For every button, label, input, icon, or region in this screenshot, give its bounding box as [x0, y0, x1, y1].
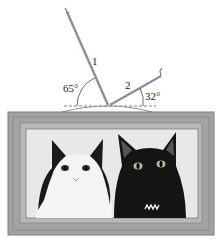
wire-2-hook-icon: [160, 68, 162, 76]
wire-2-label: 2: [125, 80, 131, 91]
angle-arc-32: [140, 88, 143, 106]
diagram-canvas: [0, 0, 224, 244]
angle-65-label: 65°: [63, 83, 78, 94]
wire-1-label: 1: [92, 56, 98, 67]
wire-1-hook-icon: [65, 8, 69, 13]
frame-hanging-wire: [62, 106, 152, 112]
angle-arc-65: [77, 78, 95, 106]
angle-32-label: 32°: [145, 91, 160, 102]
